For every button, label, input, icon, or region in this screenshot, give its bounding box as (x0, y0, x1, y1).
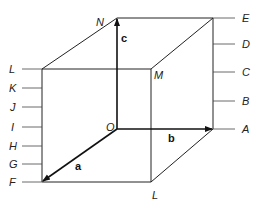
right-scale-labels: E D C B A (241, 12, 250, 135)
vector-label-a: a (75, 160, 82, 172)
scale-label-C: C (242, 66, 250, 78)
vector-label-c: c (121, 32, 127, 44)
vertex-label-O: O (106, 121, 115, 133)
scale-label-K: K (9, 82, 17, 94)
left-scale-labels: L K J I H G F (9, 63, 18, 188)
edge-L-N (42, 18, 117, 69)
scale-label-I: I (11, 121, 14, 133)
vertex-label-L-bottom: L (152, 189, 158, 201)
vertex-label-M: M (154, 69, 164, 81)
scale-label-L: L (9, 63, 15, 75)
vector-label-b: b (168, 132, 175, 144)
vertex-label-N: N (96, 16, 104, 28)
scale-ticks (22, 18, 235, 182)
cube-edges (42, 18, 213, 182)
vector-labels: a b c (75, 32, 175, 172)
scale-label-D: D (242, 38, 250, 50)
scale-label-A: A (241, 123, 249, 135)
edge-M-E (151, 18, 213, 69)
edge-Lbottom-A (151, 129, 213, 182)
scale-label-E: E (242, 12, 250, 24)
scale-label-G: G (9, 158, 18, 170)
scale-label-B: B (242, 95, 249, 107)
vector-a (43, 129, 117, 181)
scale-label-H: H (9, 140, 17, 152)
vectors (43, 19, 212, 181)
vertex-labels: N M O L (96, 16, 164, 201)
scale-label-J: J (9, 101, 16, 113)
cube-diagram: a b c N M O L L K J I H G F E D C B A (0, 0, 259, 209)
scale-label-F: F (9, 176, 17, 188)
